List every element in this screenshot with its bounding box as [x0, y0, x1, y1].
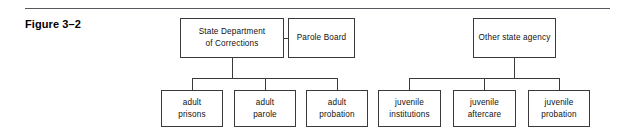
- connector-corrections-to-parole-board: [284, 38, 288, 39]
- node-label: State Department of Corrections: [199, 26, 266, 50]
- connector-drop-adult-parole: [265, 78, 266, 90]
- node-label: adult parole: [253, 97, 277, 121]
- node-juvenile-institutions[interactable]: juvenile institutions: [378, 90, 441, 127]
- node-adult-probation[interactable]: adult probation: [306, 90, 368, 127]
- connector-stem-corrections: [232, 58, 233, 78]
- figure-label: Figure 3–2: [25, 18, 81, 30]
- top-divider-rule: [25, 8, 610, 9]
- node-adult-prisons[interactable]: adult prisons: [161, 90, 223, 127]
- node-label: juvenile aftercare: [468, 97, 502, 121]
- node-label: Other state agency: [479, 32, 551, 44]
- connector-drop-adult-prisons: [192, 78, 193, 90]
- connector-stem-other-agency: [514, 58, 515, 78]
- node-adult-parole[interactable]: adult parole: [234, 90, 296, 127]
- node-other-state-agency[interactable]: Other state agency: [473, 18, 556, 58]
- node-juvenile-aftercare[interactable]: juvenile aftercare: [453, 90, 516, 127]
- node-label: Parole Board: [297, 32, 347, 44]
- node-parole-board[interactable]: Parole Board: [288, 18, 355, 58]
- node-juvenile-probation[interactable]: juvenile probation: [528, 90, 590, 127]
- figure-container: Figure 3–2 State Department of Correctio…: [0, 0, 619, 132]
- node-label: adult probation: [319, 97, 355, 121]
- connector-drop-juvenile-institutions: [409, 78, 410, 90]
- node-label: juvenile institutions: [389, 97, 429, 121]
- connector-drop-adult-probation: [337, 78, 338, 90]
- node-label: adult prisons: [178, 97, 205, 121]
- connector-drop-juvenile-aftercare: [484, 78, 485, 90]
- node-state-department-of-corrections[interactable]: State Department of Corrections: [180, 18, 284, 58]
- node-label: juvenile probation: [541, 97, 577, 121]
- connector-drop-juvenile-probation: [559, 78, 560, 90]
